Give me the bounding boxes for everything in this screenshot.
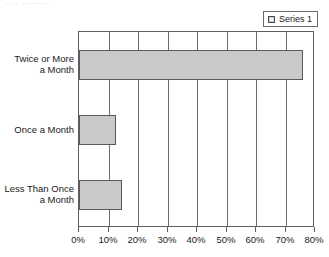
x-axis-tick-labels: 0%10%20%30%40%50%60%70%80%: [78, 234, 314, 248]
x-axis-tick: [314, 227, 315, 232]
x-axis-tick: [285, 227, 286, 232]
x-axis-ticks: [78, 227, 314, 233]
x-axis-tick: [167, 227, 168, 232]
x-axis-tick-label: 20%: [127, 234, 146, 245]
y-axis-label: Once a Month: [0, 124, 74, 135]
x-axis-tick-label: 70%: [275, 234, 294, 245]
y-axis-label: Twice or More a Month: [0, 53, 74, 75]
y-axis-category-labels: Twice or More a MonthOnce a MonthLess Th…: [0, 31, 74, 227]
x-axis-tick: [226, 227, 227, 232]
bar-chart: Series 1 Twice or More a MonthOnce a Mon…: [0, 0, 329, 257]
chart-legend: Series 1: [263, 11, 318, 27]
bar[interactable]: [79, 180, 122, 210]
bar[interactable]: [79, 115, 116, 145]
x-axis-tick-label: 40%: [186, 234, 205, 245]
x-axis-tick-label: 10%: [98, 234, 117, 245]
legend-label-series-1: Series 1: [279, 14, 312, 24]
x-axis-tick: [137, 227, 138, 232]
bar-row: [79, 115, 313, 145]
plot-area: [78, 31, 314, 227]
x-axis-tick: [108, 227, 109, 232]
y-axis-label: Less Than Once a Month: [0, 183, 74, 205]
bar-row: [79, 180, 313, 210]
x-axis-tick: [196, 227, 197, 232]
series-1-swatch: [268, 16, 275, 23]
bar[interactable]: [79, 50, 303, 80]
x-axis-tick-label: 50%: [216, 234, 235, 245]
bar-row: [79, 50, 313, 80]
x-axis-tick-label: 30%: [157, 234, 176, 245]
x-axis-tick: [78, 227, 79, 232]
x-axis-tick: [255, 227, 256, 232]
x-axis-tick-label: 0%: [71, 234, 85, 245]
x-axis-tick-label: 80%: [304, 234, 323, 245]
x-axis-tick-label: 60%: [245, 234, 264, 245]
bar-series-group: [79, 32, 313, 226]
